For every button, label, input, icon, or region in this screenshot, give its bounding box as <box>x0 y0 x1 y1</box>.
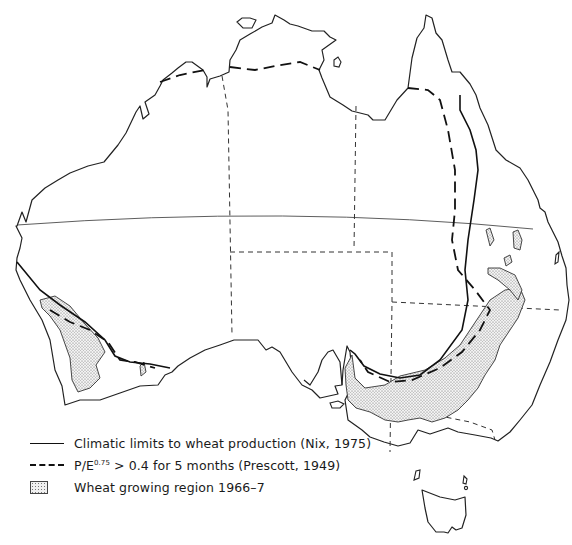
solid-line-swatch <box>30 436 64 450</box>
border-nt-qld <box>354 106 356 250</box>
eyre-peninsula <box>304 350 342 385</box>
wheat-region-qld-3 <box>513 230 522 250</box>
tasmania-outline <box>422 490 466 533</box>
wheat-region-sa-vic-nsw <box>345 288 525 422</box>
legend-item-prescott: P/E0.75 > 0.4 for 5 months (Prescott, 19… <box>30 454 371 476</box>
border-wa <box>222 76 232 335</box>
fraser-island <box>555 252 559 264</box>
legend-label-prescott: P/E0.75 > 0.4 for 5 months (Prescott, 19… <box>74 458 340 473</box>
dashed-line-swatch <box>30 458 64 472</box>
map-legend: Climatic limits to wheat production (Nix… <box>30 432 371 498</box>
wheat-region-qld-2 <box>486 228 494 246</box>
legend-item-wheat: Wheat growing region 1966–7 <box>30 476 371 498</box>
kangaroo-island <box>330 401 344 408</box>
king-island <box>414 470 420 480</box>
prescott-limit-north <box>160 70 205 82</box>
nix-climatic-limit-east <box>350 95 478 378</box>
legend-label-prescott-suffix: > 0.4 for 5 months (Prescott, 1949) <box>110 458 340 473</box>
tropic-of-capricorn <box>17 216 533 229</box>
wheat-region-wa <box>40 296 105 392</box>
legend-label-prescott-prefix: P/E <box>74 458 94 473</box>
melville-island <box>237 18 256 28</box>
prescott-limit-nt <box>230 62 320 70</box>
border-qld-nsw <box>392 302 560 310</box>
flinders-islet <box>464 486 467 489</box>
legend-label-prescott-exponent: 0.75 <box>94 458 110 466</box>
border-sa-qld-nsw <box>390 252 392 452</box>
stipple-swatch <box>30 480 64 494</box>
legend-item-nix: Climatic limits to wheat production (Nix… <box>30 432 371 454</box>
flinders-island <box>463 476 467 484</box>
legend-label-wheat: Wheat growing region 1966–7 <box>74 480 265 495</box>
legend-label-nix: Climatic limits to wheat production (Nix… <box>74 436 371 451</box>
groote-eylandt <box>334 57 341 67</box>
wheat-region-qld-4 <box>504 255 512 266</box>
